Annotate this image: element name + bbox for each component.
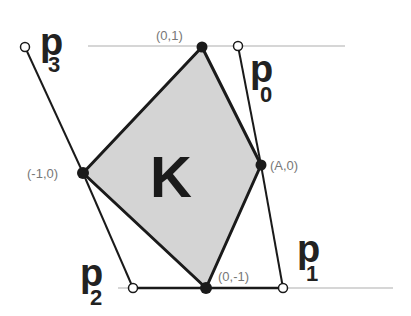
- point-p2: [129, 284, 138, 293]
- p1-sub: 1: [306, 261, 318, 286]
- point-p1: [279, 284, 288, 293]
- line-p1-right: [261, 165, 283, 288]
- label-top: (0,1): [156, 28, 183, 43]
- vertex-right: [256, 160, 267, 171]
- p2-sub: 2: [90, 285, 102, 310]
- vertex-bottom: [200, 282, 212, 294]
- vertex-left: [77, 167, 89, 179]
- point-p0: [234, 42, 243, 51]
- point-p3: [21, 43, 30, 52]
- polygon-diagram: K (0,1) (-1,0) (0,-1) (A,0) p 3 p 0 p 1 …: [0, 0, 411, 316]
- vertex-top: [197, 42, 208, 53]
- shape-label: K: [150, 144, 192, 209]
- label-left: (-1,0): [27, 166, 58, 181]
- p0-sub: 0: [260, 82, 272, 107]
- label-bottom: (0,-1): [218, 269, 249, 284]
- p3-sub: 3: [48, 52, 60, 77]
- label-right: (A,0): [270, 158, 298, 173]
